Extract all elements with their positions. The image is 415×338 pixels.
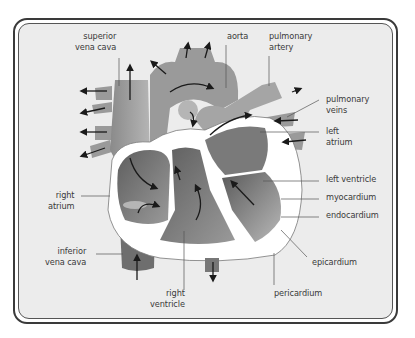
label-superior-vena-cava: superior vena cava (75, 31, 116, 52)
label-right-atrium: right atrium (48, 190, 74, 211)
descending-aorta (205, 258, 219, 272)
label-myocardium: myocardium (326, 192, 376, 203)
label-endocardium: endocardium (326, 210, 379, 221)
label-right-ventricle: right ventricle (150, 288, 185, 309)
heart-diagram (0, 0, 415, 338)
right-atrium-chamber (117, 150, 170, 224)
label-inferior-vena-cava: inferior vena cava (45, 246, 86, 267)
label-left-ventricle: left ventricle (326, 174, 376, 185)
label-pericardium: pericardium (274, 288, 322, 299)
label-left-atrium: left atrium (326, 126, 352, 147)
label-aorta: aorta (227, 31, 248, 42)
right-pulmonary-veins (90, 86, 112, 158)
label-pulmonary-artery: pulmonary artery (269, 31, 312, 52)
aortic-valve-bulb (178, 100, 198, 120)
label-pulmonary-veins: pulmonary veins (326, 94, 369, 115)
label-epicardium: epicardium (312, 257, 357, 268)
